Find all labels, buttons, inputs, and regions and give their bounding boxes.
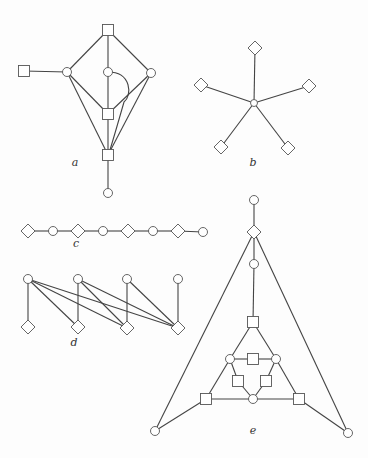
edge bbox=[108, 30, 151, 73]
diamond-node bbox=[121, 224, 135, 238]
diamond-node bbox=[171, 224, 185, 238]
edge bbox=[221, 103, 254, 147]
edge bbox=[254, 86, 309, 103]
diamond-node bbox=[214, 140, 228, 154]
graph-b: b bbox=[194, 41, 316, 169]
figure-canvas: abcde bbox=[0, 0, 368, 458]
edge bbox=[67, 72, 108, 114]
circle-node bbox=[250, 196, 259, 205]
circle-node bbox=[249, 395, 258, 404]
edge bbox=[24, 71, 67, 72]
square-node bbox=[19, 66, 30, 77]
circle-node bbox=[226, 355, 235, 364]
circle-node bbox=[123, 275, 132, 284]
square-node bbox=[233, 376, 244, 387]
circle-node bbox=[24, 275, 33, 284]
graph-label-e: e bbox=[250, 424, 257, 437]
graph-d: d bbox=[21, 275, 185, 350]
diamond-node bbox=[302, 79, 316, 93]
circle-node bbox=[104, 68, 113, 77]
square-node bbox=[201, 394, 212, 405]
circle-node bbox=[272, 355, 281, 364]
graph-label-b: b bbox=[249, 156, 256, 169]
edge bbox=[67, 72, 108, 155]
edge bbox=[28, 279, 78, 327]
edge bbox=[78, 279, 178, 328]
diamond-node bbox=[21, 224, 35, 238]
circle-node bbox=[151, 427, 160, 436]
circle-node bbox=[250, 260, 259, 269]
square-node bbox=[103, 25, 114, 36]
circle-node bbox=[147, 69, 156, 78]
edge bbox=[67, 30, 108, 72]
circle-node bbox=[149, 227, 158, 236]
diamond-node bbox=[194, 78, 208, 92]
circle-node bbox=[174, 275, 183, 284]
edge bbox=[254, 103, 288, 148]
square-node bbox=[294, 394, 305, 405]
circle-node bbox=[99, 227, 108, 236]
edge bbox=[276, 359, 299, 399]
edge bbox=[108, 73, 151, 155]
graph-label-c: c bbox=[73, 237, 79, 250]
circle-node bbox=[63, 68, 72, 77]
circle-node bbox=[251, 100, 258, 107]
edge bbox=[254, 48, 255, 103]
edge bbox=[201, 85, 254, 103]
square-node bbox=[248, 354, 259, 365]
edge bbox=[127, 279, 178, 328]
graph-figure: abcde bbox=[0, 0, 368, 458]
graph-c: c bbox=[21, 224, 208, 250]
edge bbox=[206, 359, 230, 399]
square-node bbox=[103, 109, 114, 120]
graph-a: a bbox=[19, 25, 156, 198]
square-node bbox=[261, 376, 272, 387]
circle-node bbox=[74, 275, 83, 284]
graph-label-a: a bbox=[72, 156, 79, 169]
circle-node bbox=[344, 429, 353, 438]
graph-label-d: d bbox=[70, 336, 77, 349]
circle-node bbox=[104, 189, 113, 198]
edge bbox=[108, 73, 151, 114]
square-node bbox=[103, 150, 114, 161]
diamond-node bbox=[281, 141, 295, 155]
edge bbox=[78, 279, 127, 328]
diamond-node bbox=[248, 41, 262, 55]
circle-node bbox=[49, 227, 58, 236]
diamond-node bbox=[71, 224, 85, 238]
square-node bbox=[248, 317, 259, 328]
diamond-node bbox=[21, 320, 35, 334]
edge bbox=[253, 264, 254, 322]
circle-node bbox=[199, 228, 208, 237]
diamond-node bbox=[247, 225, 261, 239]
